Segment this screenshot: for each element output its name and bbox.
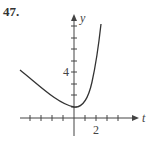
- chart: y t 4 2: [0, 0, 153, 142]
- curve-line: [20, 24, 101, 107]
- x-tick-label-2: 2: [93, 123, 99, 137]
- x-axis-label: t: [142, 111, 146, 125]
- y-axis-arrow-icon: [71, 14, 77, 21]
- y-axis-label: y: [79, 11, 86, 25]
- y-tick-label-4: 4: [63, 65, 69, 79]
- x-axis: [20, 115, 139, 121]
- x-axis-arrow-icon: [132, 115, 139, 121]
